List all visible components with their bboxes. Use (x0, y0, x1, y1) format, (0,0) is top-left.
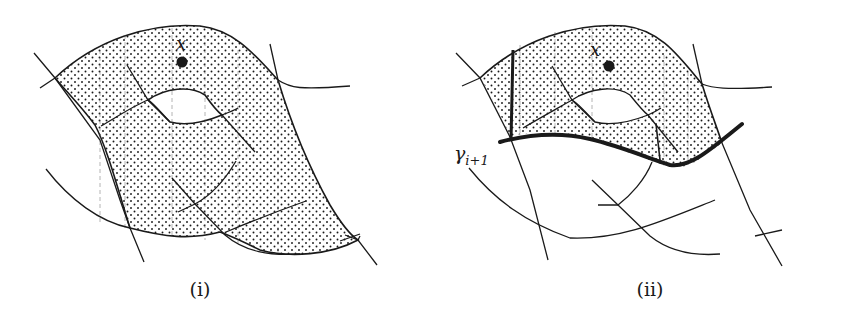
gamma-subscript: i+1 (465, 153, 488, 168)
gamma-symbol: γ (454, 142, 465, 164)
thick-vertical-segment (511, 50, 513, 140)
point-x-label: x (176, 33, 186, 54)
point-x (604, 61, 615, 72)
panel-ii: x γi+1 (ii) (420, 0, 841, 328)
gamma-label: γi+1 (454, 142, 489, 168)
panel-i: x (i) (0, 0, 420, 328)
caption-ii: (ii) (600, 278, 700, 300)
caption-i: (i) (150, 278, 250, 300)
point-x-label: x (590, 39, 600, 60)
point-x (177, 57, 188, 68)
